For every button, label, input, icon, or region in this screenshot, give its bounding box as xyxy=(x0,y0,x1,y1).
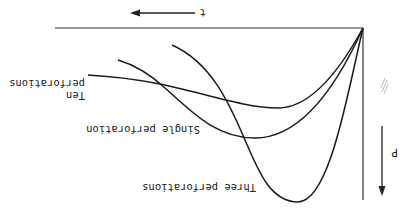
label-three-perforations: Three perforations xyxy=(142,182,256,194)
curve-ten-perforations xyxy=(88,28,363,108)
curve-three-perforations xyxy=(172,28,363,202)
label-ten-perforations-line2: perforations xyxy=(9,78,85,90)
p-axis-label: P xyxy=(391,146,398,159)
t-arrow-icon xyxy=(130,10,195,17)
label-single-perforation: Single perforation xyxy=(86,124,200,136)
label-ten-perforations-line1: Ten xyxy=(66,90,85,102)
scan-mark xyxy=(381,78,388,94)
p-arrow-icon xyxy=(379,126,386,196)
t-axis-label: t xyxy=(199,6,206,19)
pressure-time-figure: t P Ten perforations Single perforation … xyxy=(0,0,411,218)
